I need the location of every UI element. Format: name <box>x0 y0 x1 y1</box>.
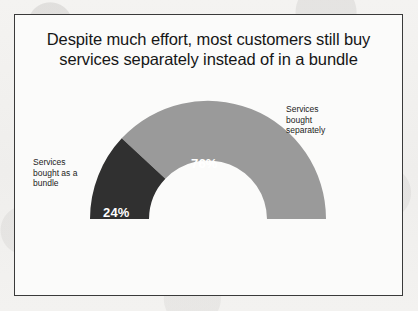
callout-label-separately: Services bought separately <box>286 104 325 136</box>
callout-separately-line-2: bought <box>286 115 325 126</box>
callout-bundle-line-3: bundle <box>33 178 77 189</box>
half-donut-chart: 76% 24% Services bought as a bundle Serv… <box>15 15 404 297</box>
callout-separately-line-1: Services <box>286 104 325 115</box>
callout-label-bundle: Services bought as a bundle <box>33 157 77 189</box>
callout-separately-line-3: separately <box>286 125 325 136</box>
callout-bundle-line-2: bought as a <box>33 168 77 179</box>
slice-value-bundle: 24% <box>103 205 130 220</box>
callout-bundle-line-1: Services <box>33 157 77 168</box>
slice-value-separately: 76% <box>191 156 218 171</box>
slide-frame: Despite much effort, most customers stil… <box>14 14 403 296</box>
